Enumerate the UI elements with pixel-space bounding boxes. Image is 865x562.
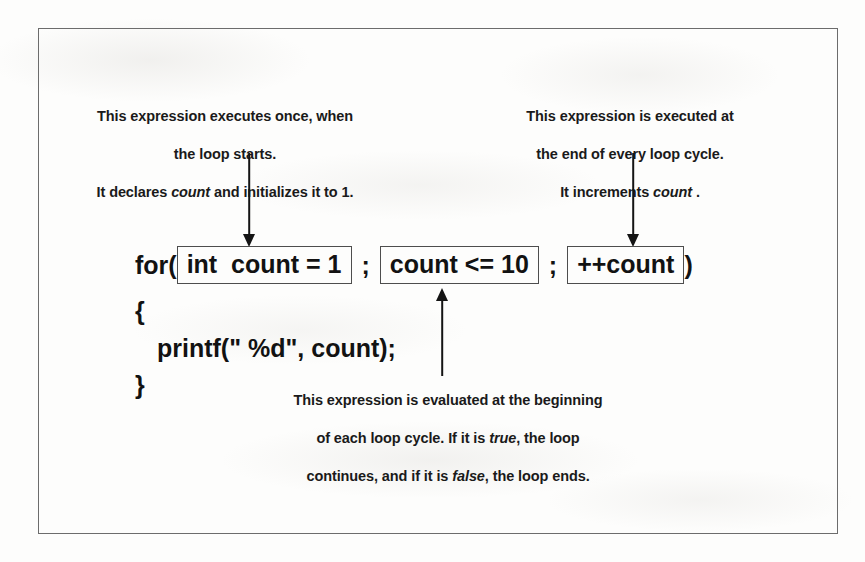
annotation-condition-line2-pre: of each loop cycle. If it is	[316, 430, 489, 446]
arrow-shaft	[632, 153, 634, 237]
close-paren: )	[684, 251, 692, 280]
annotation-increment-line1: This expression is executed at	[470, 107, 790, 126]
code-body-statement: printf(" %d", count);	[135, 329, 693, 367]
annotation-init-expression: This expression executes once, when the …	[60, 88, 390, 221]
annotation-increment-line3-post: .	[692, 184, 700, 200]
code-brace-close: }	[135, 367, 693, 403]
annotation-condition-line2-emphasis: true	[489, 430, 516, 446]
arrow-down-icon-increment	[626, 153, 640, 249]
annotation-init-line3: It declares count and initializes it to …	[60, 183, 390, 202]
for-keyword: for(	[135, 251, 177, 280]
annotation-init-line3-emphasis: count	[171, 184, 210, 200]
annotation-init-line3-pre: It declares	[97, 184, 172, 200]
separator-semicolon-2: ;	[539, 251, 567, 280]
code-block: for( int count = 1 ; count <= 10 ; ++cou…	[135, 243, 693, 403]
annotation-increment-line3-emphasis: count	[653, 184, 692, 200]
code-brace-open: {	[135, 293, 693, 329]
annotation-init-line2: the loop starts.	[60, 145, 390, 164]
annotation-condition-line3-emphasis: false	[452, 468, 485, 484]
increment-expression-box: ++count	[567, 246, 684, 284]
annotation-condition-line3-post: , the loop ends.	[485, 468, 590, 484]
arrow-down-icon-init	[242, 153, 256, 249]
annotation-condition-line3: continues, and if it is false, the loop …	[228, 467, 668, 486]
annotation-condition-line3-pre: continues, and if it is	[306, 468, 452, 484]
arrow-shaft	[248, 153, 250, 237]
init-expression-box: int count = 1	[177, 246, 352, 284]
code-for-statement-line: for( int count = 1 ; count <= 10 ; ++cou…	[135, 243, 693, 287]
annotation-condition-line2-post: , the loop	[516, 430, 579, 446]
annotation-condition-line2: of each loop cycle. If it is true, the l…	[228, 429, 668, 448]
annotation-init-line3-post: and initializes it to 1.	[210, 184, 353, 200]
figure-page: This expression executes once, when the …	[0, 0, 865, 562]
annotation-init-line1: This expression executes once, when	[60, 107, 390, 126]
condition-expression-box: count <= 10	[380, 246, 539, 284]
separator-semicolon-1: ;	[352, 251, 380, 280]
